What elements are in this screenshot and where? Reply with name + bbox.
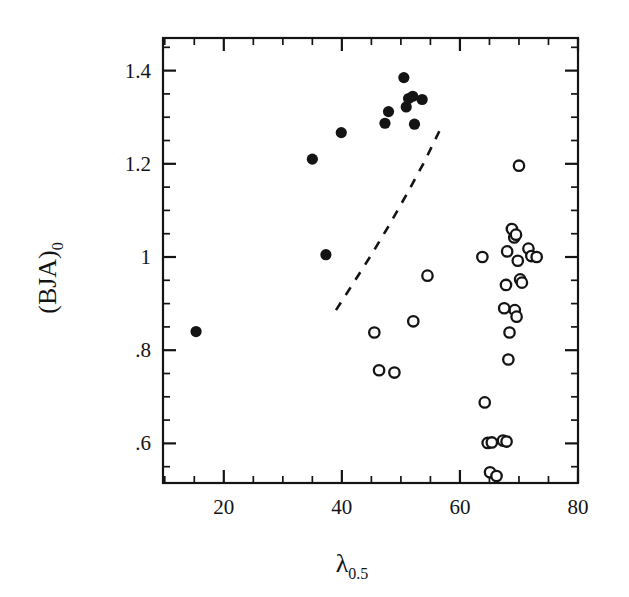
- data-point: [477, 252, 487, 262]
- data-point: [487, 437, 497, 447]
- data-point: [499, 303, 509, 313]
- data-point: [504, 327, 514, 337]
- data-point: [514, 160, 524, 170]
- x-tick-label: 60: [449, 495, 470, 519]
- x-axis-title: λ0.5: [336, 549, 369, 582]
- data-point: [517, 277, 527, 287]
- filled-circle-series: [190, 72, 427, 337]
- axis-tick-labels: 204060801.41.21.8.6: [125, 59, 589, 519]
- y-tick-label: 1.4: [125, 59, 152, 83]
- y-tick-label: .8: [135, 338, 151, 362]
- data-point: [374, 365, 384, 375]
- y-tick-label: 1.2: [125, 152, 151, 176]
- data-point: [336, 127, 347, 138]
- data-point: [369, 327, 379, 337]
- data-point: [511, 229, 521, 239]
- y-tick-label: .6: [135, 431, 151, 455]
- data-point: [511, 311, 521, 321]
- data-point: [307, 154, 318, 165]
- data-point: [501, 436, 511, 446]
- data-point: [491, 471, 501, 481]
- data-point: [422, 270, 432, 280]
- data-point: [417, 94, 428, 105]
- data-point: [513, 256, 523, 266]
- x-axis-title-subscript: 0.5: [348, 565, 368, 582]
- y-axis-title-subscript: 0: [49, 242, 66, 250]
- y-axis-title: (BJA)0: [33, 242, 66, 314]
- scatter-plot: 204060801.41.21.8.6 (BJA)0 λ0.5: [0, 0, 629, 597]
- data-point: [503, 354, 513, 364]
- data-point: [389, 367, 399, 377]
- data-point: [531, 252, 541, 262]
- data-point: [320, 249, 331, 260]
- data-point: [379, 118, 390, 129]
- data-point: [190, 326, 201, 337]
- x-axis-title-text: λ: [336, 549, 349, 578]
- dashed-boundary-curve: [336, 131, 439, 310]
- y-tick-label: 1: [141, 245, 152, 269]
- data-point: [408, 316, 418, 326]
- x-tick-label: 40: [331, 495, 352, 519]
- x-tick-label: 20: [213, 495, 234, 519]
- data-point: [383, 106, 394, 117]
- open-circle-series: [369, 160, 542, 481]
- y-axis-title-text: (BJA): [33, 250, 62, 314]
- data-point: [502, 246, 512, 256]
- data-point: [409, 119, 420, 130]
- dashed-boundary-curve: [336, 131, 439, 310]
- data-point: [398, 72, 409, 83]
- figure-container: 204060801.41.21.8.6 (BJA)0 λ0.5: [0, 0, 629, 597]
- x-tick-label: 80: [568, 495, 589, 519]
- data-point: [480, 397, 490, 407]
- svg-text:λ0.5: λ0.5: [336, 549, 369, 582]
- svg-text:(BJA)0: (BJA)0: [33, 242, 66, 314]
- data-point: [501, 280, 511, 290]
